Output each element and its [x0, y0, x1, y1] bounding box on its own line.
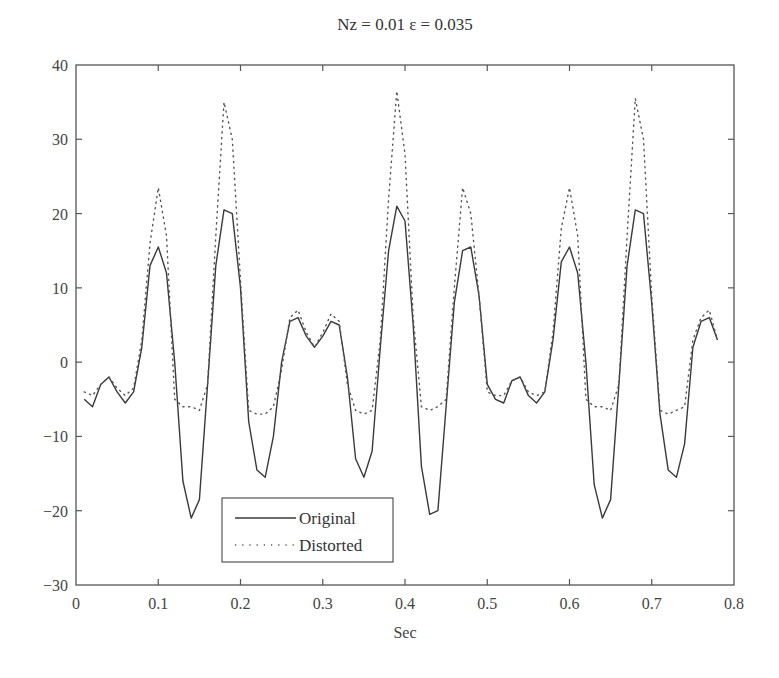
y-tick-label: −30 — [43, 577, 68, 594]
x-axis-label: Sec — [393, 624, 416, 641]
series-original — [84, 206, 717, 518]
x-tick-label: 0.4 — [395, 595, 415, 612]
legend-label-original: Original — [299, 509, 356, 528]
x-tick-label: 0.7 — [642, 595, 662, 612]
x-tick-label: 0.6 — [560, 595, 580, 612]
series-distorted — [84, 91, 717, 414]
x-tick-label: 0.1 — [148, 595, 168, 612]
y-tick-label: 10 — [52, 280, 68, 297]
legend: Original Distorted — [222, 498, 393, 562]
y-tick-label: 40 — [52, 57, 68, 74]
y-tick-label: −10 — [43, 428, 68, 445]
y-tick-label: −20 — [43, 503, 68, 520]
legend-label-distorted: Distorted — [299, 536, 363, 555]
chart-canvas: Nz = 0.01 ε = 0.035 00.10.20.30.40.50.60… — [0, 0, 779, 678]
x-tick-label: 0.2 — [231, 595, 251, 612]
y-tick-label: 20 — [52, 206, 68, 223]
x-tick-label: 0.5 — [477, 595, 497, 612]
x-tick-label: 0.8 — [724, 595, 744, 612]
y-tick-label: 30 — [52, 131, 68, 148]
series-layer — [84, 91, 717, 518]
x-tick-label: 0.3 — [313, 595, 333, 612]
y-tick-label: 0 — [60, 354, 68, 371]
chart-title: Nz = 0.01 ε = 0.035 — [337, 15, 472, 34]
plot-area-frame — [76, 65, 734, 585]
x-tick-label: 0 — [72, 595, 80, 612]
